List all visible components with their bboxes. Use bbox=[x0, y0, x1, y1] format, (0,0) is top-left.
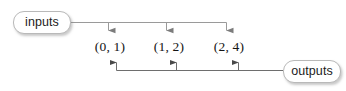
ordered-pair-2: (1, 2) bbox=[147, 40, 191, 54]
input-distribution-bus bbox=[71, 23, 227, 31]
inputs-node-label: inputs bbox=[25, 16, 59, 29]
ordered-pair-3: (2, 4) bbox=[207, 40, 251, 54]
diagram-canvas: inputs outputs (0, 1) (1, 2) (2, 4) bbox=[0, 0, 346, 91]
inputs-node: inputs bbox=[13, 11, 71, 34]
outputs-node-label: outputs bbox=[291, 65, 333, 78]
output-collection-bus bbox=[117, 63, 284, 71]
outputs-node: outputs bbox=[283, 60, 341, 83]
ordered-pair-1: (0, 1) bbox=[88, 40, 132, 54]
